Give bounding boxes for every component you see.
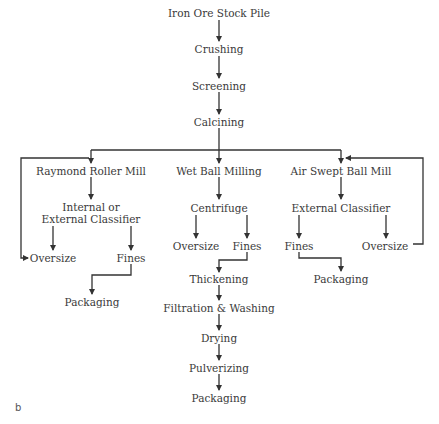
node-wet-ball-milling: Wet Ball Milling [176,165,261,177]
node-internal-external-classifier: Internal or External Classifier [42,201,141,225]
node-screening: Screening [192,80,246,92]
node-right-external-classifier: External Classifier [292,202,391,214]
node-center-packaging: Packaging [192,392,247,404]
node-crushing: Crushing [195,43,244,55]
node-calcining: Calcining [194,116,245,128]
node-left-fines: Fines [116,252,145,264]
node-center-fines: Fines [232,240,261,252]
node-centrifuge: Centrifuge [190,202,247,214]
node-thickening: Thickening [189,273,248,285]
classifier-line-1: Internal or [42,201,141,213]
classifier-line-2: External Classifier [42,213,141,225]
node-raymond-roller-mill: Raymond Roller Mill [36,165,146,177]
node-pulverizing: Pulverizing [189,362,249,374]
node-right-oversize: Oversize [362,240,408,252]
node-center-oversize: Oversize [173,240,219,252]
node-right-fines: Fines [284,240,313,252]
node-iron-ore-stock-pile: Iron Ore Stock Pile [168,7,270,19]
node-drying: Drying [201,332,237,344]
node-air-swept-ball-mill: Air Swept Ball Mill [291,165,392,177]
panel-label: b [15,402,21,413]
iron-oxide-process-flowchart: Iron Ore Stock Pile Crushing Screening C… [0,0,439,424]
node-filtration-washing: Filtration & Washing [163,302,274,314]
node-right-packaging: Packaging [314,273,369,285]
node-left-packaging: Packaging [65,296,120,308]
node-left-oversize: Oversize [30,252,76,264]
